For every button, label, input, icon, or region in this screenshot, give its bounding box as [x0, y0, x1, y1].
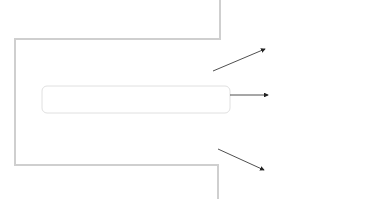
enzyme-callout-arrow [213, 49, 265, 71]
diffusion-zone-box [42, 86, 230, 113]
binding-callout-arrow [218, 149, 264, 170]
pore-diagram [0, 0, 378, 199]
